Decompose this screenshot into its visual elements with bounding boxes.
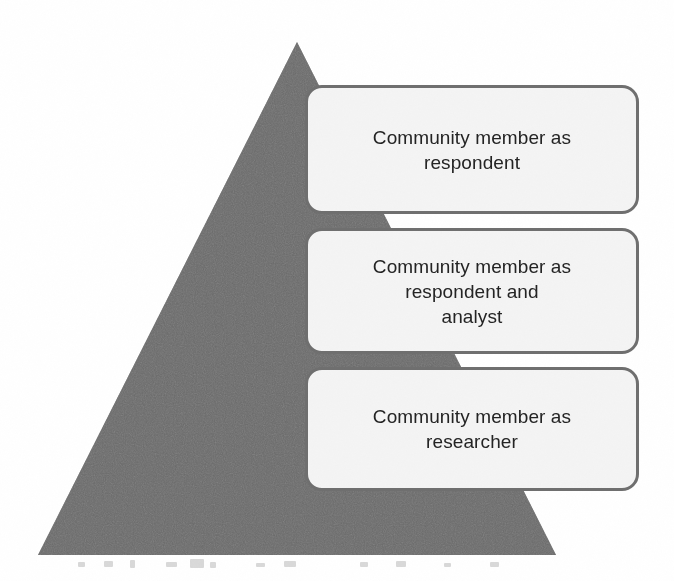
stage-box-list: Community member as respondent Community… [0, 0, 674, 581]
stage-box-respondent[interactable]: Community member as respondent [305, 85, 639, 214]
stage-box-researcher[interactable]: Community member as researcher [305, 367, 639, 491]
diagram-canvas: Community member as respondent Community… [0, 0, 674, 581]
stage-box-respondent-label: Community member as respondent [351, 125, 593, 175]
stage-box-researcher-label: Community member as researcher [351, 404, 593, 454]
stage-box-respondent-analyst[interactable]: Community member as respondent and analy… [305, 228, 639, 354]
stage-box-respondent-analyst-label: Community member as respondent and analy… [351, 254, 593, 329]
